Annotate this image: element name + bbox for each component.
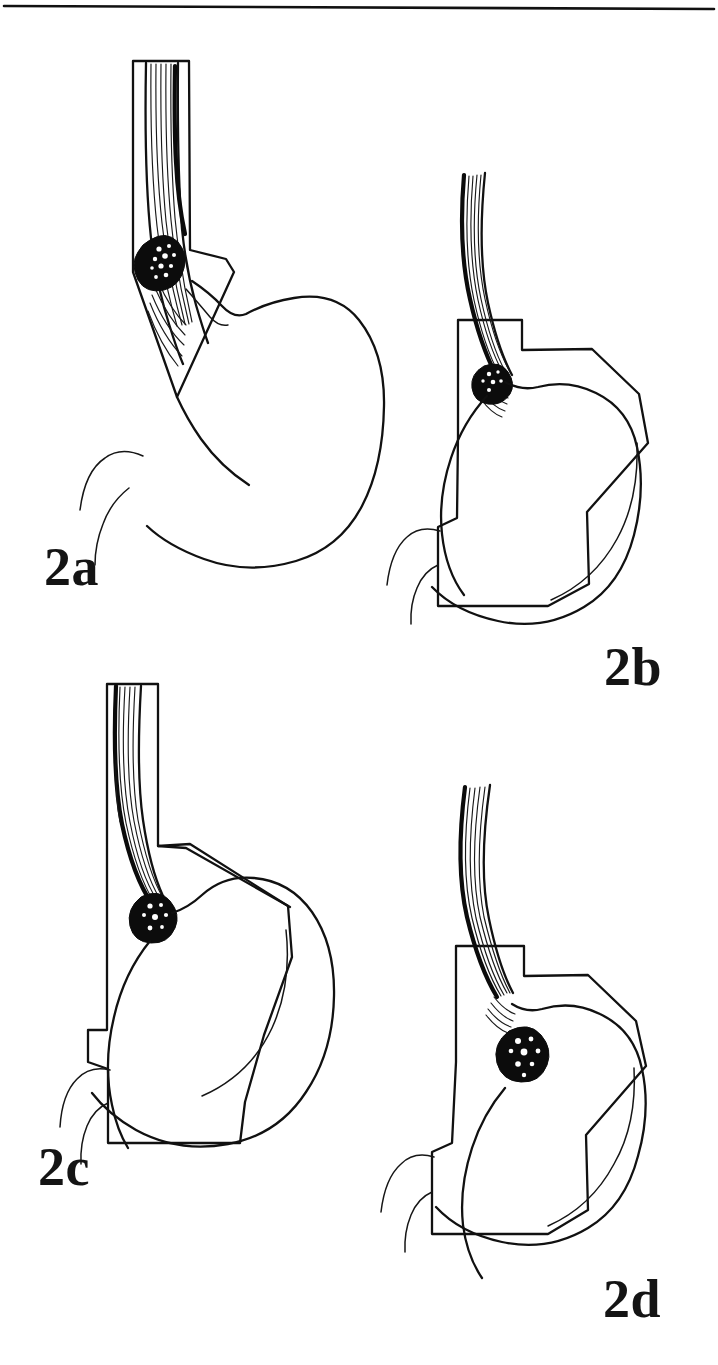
stomach-inner-2b — [551, 443, 637, 600]
panel-2d-drawing — [381, 785, 646, 1278]
tumour-mass-2a — [134, 235, 185, 290]
fold-splay-2a — [148, 281, 186, 366]
fold-splay-2d — [486, 997, 515, 1033]
stomach-inner-2d — [548, 1068, 634, 1226]
duodenum-2b — [387, 529, 440, 624]
stomach-2c — [92, 878, 334, 1148]
figure-2-container: 2a 2b 2c 2d — [0, 0, 718, 1365]
panel-2b-drawing — [387, 173, 648, 624]
mucosal-folds-2d — [465, 787, 510, 996]
panel-label-2d: 2d — [603, 1272, 661, 1326]
resection-margin-2b — [438, 320, 648, 606]
duodenum-2d — [381, 1155, 434, 1252]
panel-2a-drawing — [80, 61, 384, 568]
top-rule — [4, 6, 714, 9]
panel-label-2a: 2a — [44, 540, 99, 594]
oesophagus-2a — [146, 63, 208, 364]
stomach-inner-2c — [202, 930, 287, 1096]
mucosal-folds-2b — [467, 175, 509, 374]
panel-label-2c: 2c — [38, 1140, 90, 1194]
stomach-2b — [432, 382, 641, 624]
stomach-2a — [147, 281, 384, 568]
tumour-mass-2b — [472, 364, 513, 404]
panel-2c-drawing — [60, 684, 334, 1164]
panel-label-2b: 2b — [604, 640, 662, 694]
tumour-mass-2c — [129, 893, 177, 943]
resection-margin-2d — [432, 946, 646, 1234]
tumour-mass-2d — [496, 1027, 549, 1082]
